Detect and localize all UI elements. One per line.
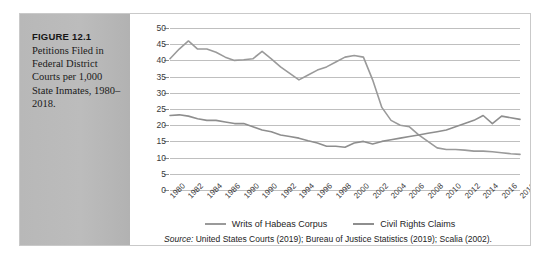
y-tick-label-5: 5: [140, 169, 166, 179]
y-tick-label-10: 10: [140, 153, 166, 163]
y-tick-label-50: 50: [140, 23, 166, 33]
figure-caption-text: Petitions Filed in Federal District Cour…: [32, 44, 121, 110]
series-line-2: [170, 115, 520, 147]
y-tick-label-15: 15: [140, 136, 166, 146]
legend-label-2: Civil Rights Claims: [380, 219, 455, 229]
figure-caption-panel: FIGURE 12.1 Petitions Filed in Federal D…: [20, 14, 130, 245]
series-line-1: [170, 41, 520, 154]
y-tick-label-45: 45: [140, 39, 166, 49]
source-citations: United States Courts (2019); Bureau of J…: [193, 234, 492, 244]
legend-swatch-1: [205, 223, 226, 225]
y-tick-label-40: 40: [140, 55, 166, 65]
source-note: Source: United States Courts (2019); Bur…: [130, 234, 526, 244]
figure-number-label: FIGURE 12.1: [32, 30, 121, 43]
y-tick-label-0: 0: [140, 185, 166, 195]
source-label: Source:: [164, 234, 193, 244]
y-tick-label-20: 20: [140, 120, 166, 130]
legend-item-2: Civil Rights Claims: [353, 219, 455, 229]
plot-area: 05101520253035404550 1980198219841986199…: [170, 28, 520, 190]
legend-item-1: Writs of Habeas Corpus: [205, 219, 327, 229]
y-tick-label-35: 35: [140, 72, 166, 82]
chart-legend: Writs of Habeas CorpusCivil Rights Claim…: [130, 219, 530, 229]
y-tick-label-30: 30: [140, 88, 166, 98]
legend-label-1: Writs of Habeas Corpus: [232, 219, 327, 229]
chart-region: 05101520253035404550 1980198219841986199…: [130, 14, 530, 245]
legend-swatch-2: [353, 223, 374, 225]
series-lines: [170, 28, 520, 190]
figure-frame: FIGURE 12.1 Petitions Filed in Federal D…: [19, 13, 531, 246]
y-tick-label-25: 25: [140, 104, 166, 114]
